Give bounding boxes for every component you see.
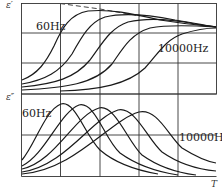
xlabel: T <box>211 179 218 189</box>
curve-f4-real <box>22 26 216 90</box>
bottom-10000hz-label: 10000Hz <box>179 131 222 144</box>
bottom-ylabel: ε″ <box>6 92 15 102</box>
bottom-60hz-label: 60Hz <box>22 107 52 120</box>
top-60hz-label: 60Hz <box>36 20 66 33</box>
top-ylabel: ε′ <box>6 0 13 10</box>
permittivity-chart: ε′ ε″ T 60Hz 10000Hz 60Hz 10000Hz <box>0 0 222 189</box>
top-10000hz-label: 10000Hz <box>158 42 209 55</box>
